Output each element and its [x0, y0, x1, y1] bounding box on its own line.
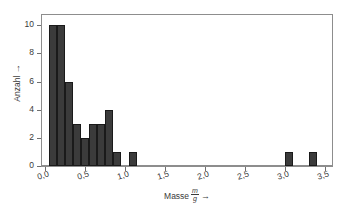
y-axis-tick-label: 8 [29, 48, 34, 57]
x-axis-tick-label: 2,5 [236, 169, 250, 182]
x-axis-title-text: Masse [164, 191, 189, 201]
y-axis-arrow-icon: → [12, 64, 22, 73]
y-axis-tick-label: 4 [29, 105, 34, 114]
x-axis-tick-label: 1,5 [156, 169, 170, 182]
histogram-bar [105, 110, 113, 166]
y-axis-tick [37, 82, 41, 83]
histogram-bar [73, 124, 81, 166]
y-axis-tick-label: 0 [29, 161, 34, 170]
x-axis-unit-fraction: mg [191, 187, 199, 202]
x-axis-tick-label: 2,0 [196, 169, 210, 182]
histogram-bar [113, 152, 121, 166]
y-axis-tick [37, 166, 41, 167]
x-axis-title: Massemg→ [41, 187, 333, 202]
x-axis-tick-label: 3,5 [316, 169, 330, 182]
histogram-bar [97, 124, 105, 166]
x-axis-unit-numerator: m [191, 187, 199, 195]
histogram-bar [49, 25, 57, 166]
y-axis-tick-label: 10 [25, 20, 34, 29]
y-axis-tick [37, 138, 41, 139]
x-axis-arrow-icon: → [201, 191, 210, 201]
y-axis-line [41, 14, 42, 166]
histogram-bar [65, 82, 73, 166]
histogram-bar [89, 124, 97, 166]
y-axis-tick [37, 53, 41, 54]
x-axis-tick-label: 0,5 [76, 169, 90, 182]
x-axis-tick-label: 3,0 [276, 169, 290, 182]
histogram-figure: Anzahl → Massemg→ 02468100,00,51,01,52,0… [0, 0, 357, 205]
histogram-bar [129, 152, 137, 166]
x-axis-tick-label: 0,0 [36, 169, 50, 182]
y-axis-tick-label: 6 [29, 77, 34, 86]
x-axis-tick-label: 1,0 [116, 169, 130, 182]
histogram-bar [309, 152, 317, 166]
x-axis-unit-denominator: g [191, 195, 199, 202]
y-axis-tick [37, 25, 41, 26]
plot-area [41, 14, 333, 166]
histogram-bar [81, 138, 89, 166]
y-axis-title: Anzahl → [12, 38, 22, 128]
y-axis-title-text: Anzahl [12, 76, 22, 102]
y-axis-tick [37, 110, 41, 111]
histogram-bar [285, 152, 293, 166]
histogram-bar [57, 25, 65, 166]
y-axis-tick-label: 2 [29, 133, 34, 142]
